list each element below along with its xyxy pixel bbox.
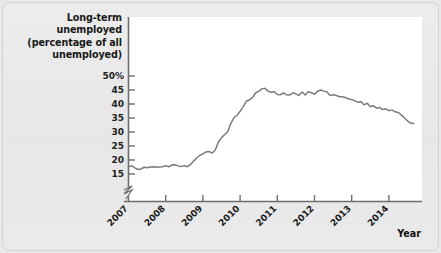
y-axis-tick-labels: 1520253035404550% [102,71,124,179]
x-tick-label: 2013 [328,203,353,228]
x-axis-title: Year [397,228,421,239]
figure-container: Long-term unemployed (percentage of all … [0,0,441,253]
x-tick-label: 2007 [105,203,130,228]
y-tick-label: 50% [102,71,124,81]
y-tick-label: 20 [111,155,124,165]
x-axis-tick-labels: 20072008200920102011201220132014 [105,203,390,228]
y-tick-label: 35 [111,113,124,123]
y-tick-label: 30 [111,127,124,137]
x-tick-label: 2014 [366,203,391,228]
x-tick-label: 2008 [142,203,167,228]
chart-plot: 1520253035404550% 2007200820092010201120… [0,0,441,253]
x-tick-label: 2011 [254,203,279,228]
x-tick-label: 2010 [217,203,242,228]
y-tick-label: 40 [111,99,124,109]
x-tick-label: 2009 [180,203,205,228]
x-tick-label: 2012 [291,203,316,228]
plot-background [128,17,422,201]
y-tick-label: 15 [111,169,124,179]
y-tick-label: 45 [111,85,124,95]
y-tick-label: 25 [111,141,124,151]
